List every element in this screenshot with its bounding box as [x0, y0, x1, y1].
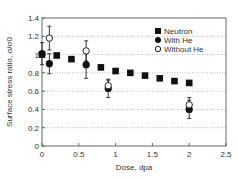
y-tick-label: 1.4 — [28, 14, 40, 23]
chart-container: 00.20.40.60.811.21.400.511.522.5Dose, dp… — [0, 0, 238, 179]
y-tick-label: 0.2 — [28, 124, 40, 133]
neutron-marker — [186, 80, 193, 87]
legend-label: Neutron — [164, 27, 192, 36]
neutron-marker — [127, 70, 134, 77]
with-he-marker — [38, 50, 45, 57]
with-he-marker — [46, 60, 53, 67]
y-tick-label: 0.6 — [28, 87, 40, 96]
legend-filled-circle-icon — [155, 37, 161, 43]
neutron-marker — [68, 56, 75, 63]
without-he-marker — [186, 102, 192, 108]
x-axis-label: Dose, dpa — [116, 163, 153, 172]
plot-frame — [42, 18, 226, 146]
neutron-marker — [156, 75, 163, 82]
legend-open-circle-icon — [155, 46, 160, 51]
y-axis-label: Surface stress ratio, σ/σ0 — [5, 36, 14, 126]
legend-label: Without He — [164, 45, 204, 54]
neutron-marker — [98, 64, 105, 71]
neutron-marker — [142, 72, 149, 79]
x-tick-label: 2.5 — [220, 150, 232, 159]
y-tick-label: 0.8 — [28, 69, 40, 78]
legend-label: With He — [164, 36, 193, 45]
x-tick-label: 1 — [113, 150, 118, 159]
y-tick-label: 0.4 — [28, 105, 40, 114]
without-he-marker — [46, 35, 52, 41]
neutron-marker — [112, 68, 119, 75]
with-he-marker — [83, 61, 90, 68]
without-he-marker — [105, 82, 111, 88]
x-tick-label: 1.5 — [147, 150, 159, 159]
scatter-plot: 00.20.40.60.811.21.400.511.522.5Dose, dp… — [0, 0, 238, 179]
without-he-marker — [83, 48, 89, 54]
neutron-marker — [171, 78, 178, 85]
x-tick-label: 0.5 — [73, 150, 85, 159]
x-tick-label: 2 — [187, 150, 192, 159]
y-tick-label: 1.2 — [28, 32, 40, 41]
x-tick-label: 0 — [40, 150, 45, 159]
legend-square-icon — [155, 28, 161, 34]
neutron-marker — [53, 52, 60, 59]
